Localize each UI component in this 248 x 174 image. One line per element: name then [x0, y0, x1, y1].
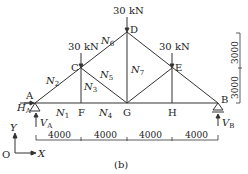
node-label-H: H	[168, 107, 177, 118]
dim-label-4: 4000	[185, 130, 208, 140]
node-label-D: D	[130, 24, 138, 35]
arrowhead-HA-icon	[30, 101, 34, 105]
load-arrows	[24, 17, 220, 127]
node-label-E: E	[175, 62, 182, 73]
member-label-N4: N4	[98, 107, 113, 120]
truss-diagram: A F G H B C D E 30 kN 30 kN 30 kN N1 N2 …	[0, 0, 248, 174]
node-label-B: B	[221, 94, 228, 105]
node-label-G: G	[123, 107, 131, 118]
member-label-N5: N5	[99, 69, 113, 82]
arrowhead-E-icon	[170, 64, 174, 68]
dim-label-2: 4000	[94, 130, 117, 140]
load-label-D: 30 kN	[113, 5, 144, 16]
dimension-lines	[36, 33, 242, 141]
reaction-label-VB: VB	[222, 117, 234, 130]
member-label-N7: N7	[130, 64, 144, 77]
figure-caption: (b)	[114, 159, 128, 170]
dim-label-3: 4000	[139, 130, 162, 140]
y-axis-arrow-icon	[13, 133, 17, 138]
node-label-F: F	[78, 107, 85, 118]
arrowhead-VA-icon	[34, 113, 38, 117]
origin-label: O	[2, 149, 10, 160]
arrowhead-VB-icon	[216, 114, 220, 118]
dim-label-v2: 3000	[230, 76, 240, 99]
node-label-C: C	[71, 62, 79, 73]
reaction-label-HA: HA	[16, 102, 32, 115]
member-label-N3: N3	[83, 81, 97, 94]
node-label-A: A	[25, 90, 34, 101]
load-label-C: 30 kN	[68, 41, 99, 52]
member-label-N2: N2	[45, 75, 59, 88]
arrowhead-D-icon	[125, 28, 129, 32]
member-label-N1: N1	[55, 107, 69, 120]
dim-label-1: 4000	[48, 130, 71, 140]
reaction-label-VA: VA	[40, 117, 53, 130]
arrowhead-C-icon	[79, 64, 83, 68]
load-label-E: 30 kN	[159, 41, 190, 52]
x-axis-arrow-icon	[31, 151, 36, 155]
x-axis-label: X	[37, 148, 46, 159]
member-label-N6: N6	[100, 35, 115, 48]
y-axis-label: Y	[10, 122, 18, 133]
dim-label-v1: 3000	[230, 41, 240, 64]
coordinate-axes	[13, 133, 36, 155]
